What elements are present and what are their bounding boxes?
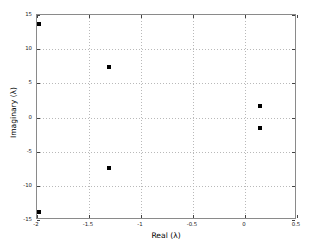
x-tick-label: -2 bbox=[33, 221, 38, 227]
y-tick-mark bbox=[37, 83, 40, 84]
x-axis-title: Real (λ) bbox=[36, 231, 296, 240]
y-tick-mark bbox=[37, 49, 40, 50]
x-tick-mark bbox=[245, 15, 246, 18]
y-tick-label: -10 bbox=[10, 182, 32, 188]
y-gridline bbox=[37, 49, 295, 50]
y-tick-mark bbox=[37, 186, 40, 187]
y-tick-label: -5 bbox=[10, 148, 32, 154]
y-tick-label: 10 bbox=[10, 45, 32, 51]
data-point bbox=[258, 126, 262, 130]
y-gridline bbox=[37, 83, 295, 84]
y-tick-label: 0 bbox=[10, 114, 32, 120]
x-tick-label: -1.5 bbox=[83, 221, 94, 227]
x-tick-label: -1 bbox=[137, 221, 142, 227]
y-tick-label: -15 bbox=[10, 216, 32, 222]
x-tick-label: -0.5 bbox=[187, 221, 198, 227]
x-tick-mark bbox=[89, 15, 90, 18]
data-point bbox=[258, 104, 262, 108]
y-tick-mark bbox=[37, 15, 40, 16]
x-tick-label: 0.5 bbox=[292, 221, 301, 227]
y-tick-mark bbox=[292, 152, 295, 153]
x-gridline bbox=[141, 15, 142, 218]
y-axis-title: Imaginary (λ) bbox=[9, 53, 18, 173]
x-tick-mark bbox=[193, 15, 194, 18]
x-tick-mark bbox=[141, 15, 142, 18]
y-tick-mark bbox=[292, 15, 295, 16]
data-point bbox=[37, 22, 41, 26]
y-tick-mark bbox=[292, 118, 295, 119]
x-tick-mark bbox=[245, 215, 246, 218]
data-point bbox=[107, 65, 111, 69]
x-tick-mark bbox=[297, 215, 298, 218]
y-tick-label: 15 bbox=[10, 11, 32, 17]
x-gridline bbox=[193, 15, 194, 218]
x-tick-mark bbox=[297, 15, 298, 18]
y-gridline bbox=[37, 152, 295, 153]
x-gridline bbox=[89, 15, 90, 218]
y-gridline bbox=[37, 186, 295, 187]
y-tick-mark bbox=[37, 152, 40, 153]
y-tick-mark bbox=[292, 186, 295, 187]
x-tick-mark bbox=[141, 215, 142, 218]
x-tick-mark bbox=[193, 215, 194, 218]
eigenvalue-scatter-figure: Real (λ) Imaginary (λ) -2-1.5-1-0.500.5-… bbox=[0, 0, 335, 250]
plot-area bbox=[36, 14, 296, 219]
x-tick-mark bbox=[37, 215, 38, 218]
x-gridline bbox=[245, 15, 246, 218]
x-tick-mark bbox=[89, 215, 90, 218]
x-tick-label: 0 bbox=[242, 221, 245, 227]
y-tick-mark bbox=[292, 83, 295, 84]
data-point bbox=[37, 210, 41, 214]
data-point bbox=[107, 166, 111, 170]
y-tick-mark bbox=[37, 118, 40, 119]
y-gridline bbox=[37, 118, 295, 119]
y-tick-label: 5 bbox=[10, 79, 32, 85]
y-tick-mark bbox=[292, 49, 295, 50]
